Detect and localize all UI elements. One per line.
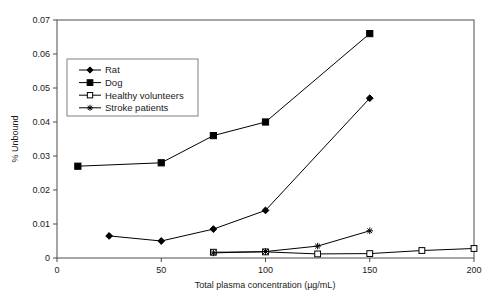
square-marker (87, 80, 93, 86)
open-square-marker (367, 251, 373, 257)
y-tick-label: 0.06 (32, 49, 50, 59)
plasma-concentration-unbound-line-chart: 00.010.020.030.040.050.060.07 0501001502… (0, 0, 496, 303)
square-marker (262, 119, 268, 125)
data-point-filled-square (210, 133, 216, 139)
y-tick-label: 0.07 (32, 15, 50, 25)
data-point-open-square (87, 93, 92, 98)
data-point-asterisk (210, 250, 217, 257)
data-point-asterisk (87, 105, 93, 111)
diamond-marker (106, 233, 113, 240)
data-point-filled-diamond (106, 233, 113, 240)
open-square-marker (419, 248, 425, 254)
data-point-open-square (367, 251, 373, 257)
series-rat (106, 95, 373, 245)
x-axis: 050100150200 (54, 258, 481, 275)
data-point-filled-square (367, 31, 373, 37)
series-line (109, 98, 370, 241)
open-square-marker (315, 251, 321, 257)
legend-label: Stroke patients (105, 102, 169, 113)
x-tick-label: 100 (258, 265, 273, 275)
data-point-asterisk (262, 248, 269, 255)
x-tick-label: 0 (54, 265, 59, 275)
legend-label: Healthy volunteers (105, 90, 184, 101)
data-point-open-square (471, 246, 477, 252)
x-axis-title: Total plasma concentration (µg/mL) (195, 280, 336, 290)
chart-figure: 00.010.020.030.040.050.060.07 0501001502… (0, 0, 496, 303)
data-point-asterisk (314, 243, 321, 250)
data-point-filled-diamond (158, 238, 165, 245)
plot-frame (57, 20, 474, 258)
series-stroke-patients (210, 228, 373, 257)
x-tick-label: 150 (362, 265, 377, 275)
data-point-filled-square (75, 163, 81, 169)
open-square-marker (87, 93, 92, 98)
legend-label: Dog (105, 77, 122, 88)
plot-area-border (57, 20, 474, 258)
square-marker (158, 160, 164, 166)
y-axis-title: % Unbound (10, 115, 20, 162)
chart-legend: RatDogHealthy volunteersStroke patients (67, 59, 198, 116)
open-square-marker (471, 246, 477, 252)
data-point-filled-square (87, 80, 93, 86)
series-healthy-volunteers (210, 246, 476, 257)
square-marker (210, 133, 216, 139)
data-point-open-square (315, 251, 321, 257)
y-tick-label: 0 (45, 253, 50, 263)
y-tick-label: 0.05 (32, 83, 50, 93)
y-tick-label: 0.03 (32, 151, 50, 161)
series-line (213, 231, 369, 253)
data-point-filled-square (158, 160, 164, 166)
diamond-marker (210, 226, 217, 233)
legend-label: Rat (105, 64, 120, 75)
y-tick-label: 0.04 (32, 117, 50, 127)
data-point-filled-square (262, 119, 268, 125)
square-marker (367, 31, 373, 37)
y-tick-label: 0.01 (32, 219, 50, 229)
data-point-open-square (419, 248, 425, 254)
data-point-filled-diamond (210, 226, 217, 233)
series-line (213, 248, 474, 253)
x-tick-label: 50 (156, 265, 166, 275)
x-tick-label: 200 (466, 265, 481, 275)
square-marker (75, 163, 81, 169)
data-point-asterisk (366, 228, 373, 235)
y-axis: 00.010.020.030.040.050.060.07 (32, 15, 57, 263)
y-tick-label: 0.02 (32, 185, 50, 195)
diamond-marker (158, 238, 165, 245)
